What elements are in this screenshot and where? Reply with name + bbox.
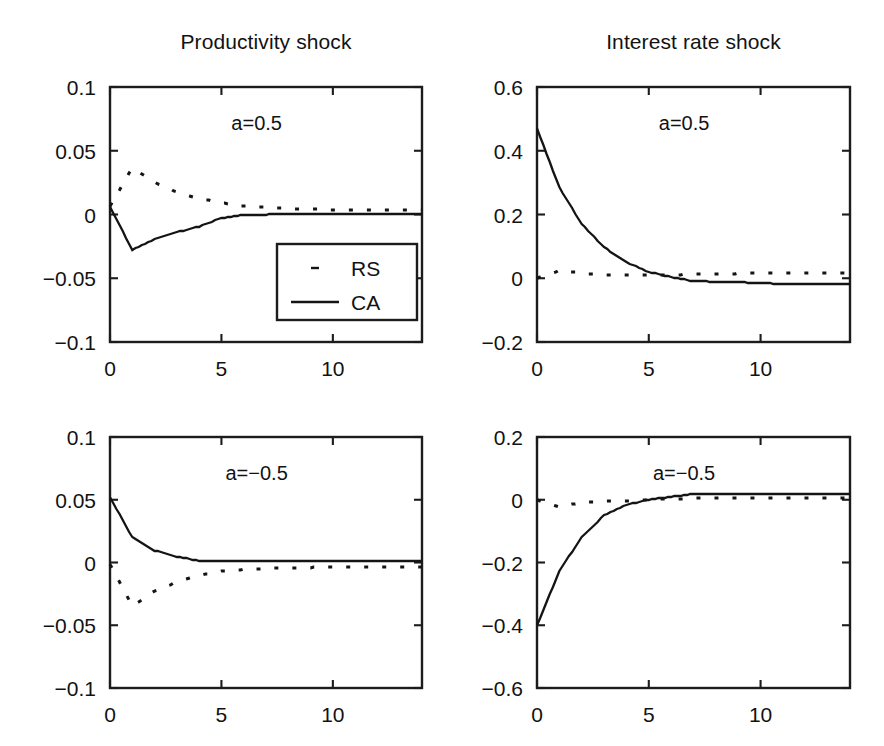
legend-box — [277, 244, 417, 320]
annotation-interest-rate-a-positive: a=0.5 — [659, 112, 710, 134]
plot-interest-rate-a-negative: 0510−0.6−0.4−0.200.2a=−0.5 — [427, 397, 884, 740]
subplot-productivity-a-positive: 0510−0.1−0.0500.050.1a=0.5RSCA — [0, 47, 458, 394]
legend-label-CA: CA — [351, 291, 380, 314]
subplot-productivity-a-negative: 0510−0.1−0.0500.050.1a=−0.5 — [0, 397, 458, 740]
subplot-interest-rate-a-positive: 0510−0.200.20.40.6a=0.5 — [427, 47, 884, 394]
y-ticklabel-0.05: 0.05 — [55, 489, 96, 512]
x-ticklabel-0: 0 — [531, 703, 543, 726]
y-ticklabel-0.4: 0.4 — [494, 140, 524, 163]
plot-productivity-a-positive: 0510−0.1−0.0500.050.1a=0.5RSCA — [0, 47, 458, 394]
y-ticklabel-0: 0 — [84, 204, 96, 227]
x-ticklabel-10: 10 — [321, 703, 344, 726]
y-ticklabel-−0.2: −0.2 — [482, 331, 523, 354]
legend[interactable]: RSCA — [277, 244, 417, 320]
subplot-interest-rate-a-negative: 0510−0.6−0.4−0.200.2a=−0.5 — [427, 397, 884, 740]
y-ticklabel-−0.2: −0.2 — [482, 552, 523, 575]
y-ticklabel-−0.4: −0.4 — [482, 614, 524, 637]
y-ticklabel-−0.1: −0.1 — [55, 331, 96, 354]
x-ticklabel-5: 5 — [216, 357, 228, 380]
legend-label-RS: RS — [351, 257, 380, 280]
x-ticklabel-0: 0 — [104, 703, 116, 726]
y-ticklabel-0: 0 — [511, 267, 523, 290]
y-ticklabel-−0.1: −0.1 — [55, 677, 96, 700]
y-ticklabel-0: 0 — [511, 489, 523, 512]
figure-canvas: Productivity shock Interest rate shock 0… — [0, 0, 884, 746]
y-ticklabel-0.05: 0.05 — [55, 140, 96, 163]
x-ticklabel-5: 5 — [643, 703, 655, 726]
x-ticklabel-10: 10 — [749, 357, 772, 380]
annotation-interest-rate-a-negative: a=−0.5 — [653, 462, 715, 484]
plot-productivity-a-negative: 0510−0.1−0.0500.050.1a=−0.5 — [0, 397, 458, 740]
y-ticklabel-−0.6: −0.6 — [482, 677, 523, 700]
y-ticklabel-−0.05: −0.05 — [43, 614, 96, 637]
annotation-productivity-a-positive: a=0.5 — [231, 112, 282, 134]
x-ticklabel-10: 10 — [321, 357, 344, 380]
y-ticklabel-−0.05: −0.05 — [43, 267, 96, 290]
x-ticklabel-5: 5 — [216, 703, 228, 726]
y-ticklabel-0.1: 0.1 — [67, 76, 96, 99]
x-ticklabel-0: 0 — [104, 357, 116, 380]
y-ticklabel-0.1: 0.1 — [67, 426, 96, 449]
x-ticklabel-10: 10 — [749, 703, 772, 726]
y-ticklabel-0: 0 — [84, 552, 96, 575]
plot-interest-rate-a-positive: 0510−0.200.20.40.6a=0.5 — [427, 47, 884, 394]
annotation-productivity-a-negative: a=−0.5 — [225, 462, 287, 484]
y-ticklabel-0.2: 0.2 — [494, 204, 523, 227]
y-ticklabel-0.6: 0.6 — [494, 76, 523, 99]
x-ticklabel-0: 0 — [531, 357, 543, 380]
y-ticklabel-0.2: 0.2 — [494, 426, 523, 449]
x-ticklabel-5: 5 — [643, 357, 655, 380]
